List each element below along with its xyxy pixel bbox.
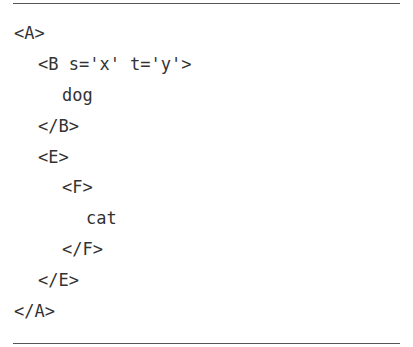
code-line-open-e: <E> — [14, 142, 192, 173]
code-line-open-b: <B s='x' t='y'> — [14, 49, 192, 80]
top-rule-divider — [13, 3, 400, 4]
bottom-rule-divider — [13, 343, 400, 344]
code-line-open-a: <A> — [14, 18, 192, 49]
code-line-close-f: </F> — [14, 234, 192, 265]
code-line-text-dog: dog — [14, 80, 192, 111]
code-line-close-b: </B> — [14, 111, 192, 142]
code-line-close-e: </E> — [14, 265, 192, 296]
code-line-close-a: </A> — [14, 296, 192, 327]
code-line-text-cat: cat — [14, 203, 192, 234]
xml-code-block: <A> <B s='x' t='y'> dog </B> <E> <F> cat… — [14, 18, 192, 327]
code-line-open-f: <F> — [14, 172, 192, 203]
